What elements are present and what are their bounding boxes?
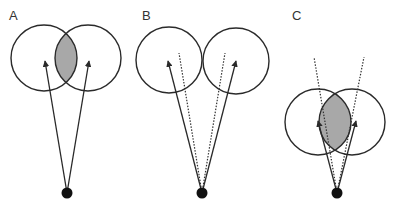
left-arrow-icon [168, 61, 202, 193]
panel-c: C [285, 8, 385, 199]
right-arrow-icon [67, 61, 89, 193]
panel-label: B [142, 8, 151, 23]
right-arrow-icon [202, 61, 236, 193]
origin-dot [332, 188, 343, 199]
left-field-circle [136, 27, 202, 93]
origin-dot [197, 188, 208, 199]
panel-b: B [136, 8, 269, 199]
binocular-vision-diagram: ABC [0, 0, 396, 205]
panel-a: A [9, 8, 121, 199]
panel-label: A [9, 8, 18, 23]
origin-dot [62, 188, 73, 199]
panel-label: C [292, 8, 301, 23]
